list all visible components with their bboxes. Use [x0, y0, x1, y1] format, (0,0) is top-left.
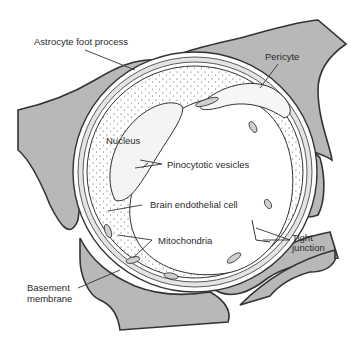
- label-mitochondria: Mitochondria: [158, 235, 212, 246]
- label-brain-endothelial-cell: Brain endothelial cell: [150, 199, 238, 210]
- label-astrocyte-foot-process: Astrocyte foot process: [34, 36, 128, 47]
- label-pericyte: Pericyte: [265, 51, 299, 62]
- label-tight-junction-line2: junction: [292, 242, 325, 253]
- label-basement-membrane-line2: membrane: [27, 293, 72, 304]
- label-basement-membrane-line1: Basement: [27, 282, 70, 293]
- label-nucleus: Nucleus: [106, 135, 140, 146]
- label-pinocytotic-vesicles: Pinocytotic vesicles: [167, 159, 249, 170]
- bbb-diagram: [0, 0, 356, 360]
